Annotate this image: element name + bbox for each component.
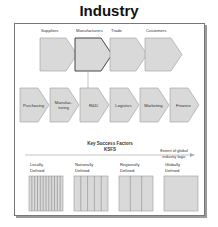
value-chain-label: R&D: [89, 103, 98, 108]
ksf-title: Key Success Factors: [87, 141, 133, 146]
scope-label: Defined: [30, 168, 45, 173]
scope-label: Locally: [30, 162, 44, 167]
scope-box: [74, 176, 108, 211]
value-chain-label: turing: [58, 105, 69, 110]
value-chain-label: Finance: [176, 103, 192, 108]
scope-label: Globally: [165, 162, 181, 167]
industry-chain-label: Customers: [146, 28, 166, 33]
scope-label: Regionally: [120, 162, 140, 167]
axis-label: industry logic: [162, 154, 185, 159]
scope-box: [164, 176, 198, 211]
industry-chain-label: Suppliers: [41, 28, 58, 33]
ksf-subtitle: KSFS: [104, 147, 116, 152]
scope-label: Nationally: [75, 162, 94, 167]
scope-label: Defined: [120, 168, 135, 173]
scope-label: Defined: [75, 168, 90, 173]
value-chain-label: Logistics: [115, 103, 131, 108]
industry-chain-chevron: [145, 38, 182, 71]
industry-chain-chevron: [40, 38, 77, 71]
scope-label: Defined: [165, 168, 180, 173]
axis-arrow-head-icon: [190, 153, 195, 157]
industry-diagram: SuppliersManufacturersTradeCustomersPurc…: [0, 0, 218, 227]
axis-label: Extent of global: [160, 148, 188, 153]
industry-chain-chevron: [110, 38, 147, 71]
value-chain-label: Marketing: [144, 103, 163, 108]
value-chain-label: Purchasing: [23, 103, 45, 108]
industry-chain-chevron: [75, 38, 112, 71]
industry-chain-label: Manufacturers: [76, 28, 103, 33]
industry-chain-label: Trade: [111, 28, 122, 33]
scope-box: [119, 176, 153, 211]
